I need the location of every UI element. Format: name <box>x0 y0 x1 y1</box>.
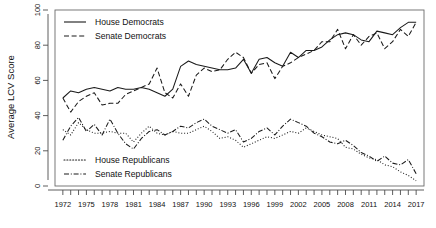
x-tick-label: 1975 <box>78 200 95 209</box>
legend-republicans-label-1: Senate Republicans <box>95 169 172 179</box>
x-tick-label: 1978 <box>102 200 119 209</box>
y-tick-label: 20 <box>33 147 42 155</box>
x-tick-label: 1999 <box>266 200 283 209</box>
y-tick-label: 0 <box>33 184 42 188</box>
x-tick-label: 2014 <box>384 200 401 209</box>
x-tick-label: 1990 <box>196 200 213 209</box>
y-tick-label: 60 <box>33 76 42 84</box>
x-tick-label: 1984 <box>149 200 166 209</box>
legend-democrats-label-0: House Democrats <box>95 17 164 27</box>
x-tick-label: 1981 <box>125 200 142 209</box>
x-tick-label: 2002 <box>290 200 307 209</box>
chart-figure: 020406080100 Average LCV Score 197219751… <box>0 0 436 228</box>
x-tick-label: 2017 <box>408 200 425 209</box>
y-tick-label: 80 <box>33 41 42 49</box>
y-tick-label: 100 <box>33 4 42 17</box>
x-tick-label: 2011 <box>361 200 377 209</box>
line-chart-svg: 020406080100 Average LCV Score 197219751… <box>0 0 436 228</box>
x-tick-label: 1987 <box>172 200 189 209</box>
x-tick-label: 1972 <box>55 200 72 209</box>
y-tick-label: 40 <box>33 111 42 119</box>
y-axis-label: Average LCV Score <box>5 55 16 139</box>
x-tick-label: 1996 <box>243 200 260 209</box>
x-tick-label: 1993 <box>219 200 236 209</box>
x-tick-label: 2008 <box>337 200 354 209</box>
legend-democrats-label-1: Senate Democrats <box>95 31 166 41</box>
legend-republicans-label-0: House Republicans <box>95 155 170 165</box>
x-tick-label: 2005 <box>314 200 331 209</box>
chart-background <box>0 0 436 228</box>
